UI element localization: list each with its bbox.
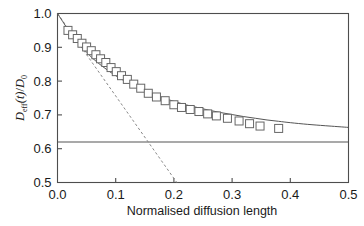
data-point-marker [275, 124, 283, 132]
chart-svg: 0.00.10.20.30.40.5 0.50.60.70.80.91.0 No… [0, 0, 364, 226]
y-axis-title: Deff(t)/D0 [13, 75, 29, 122]
y-axis-title-D2: D [13, 79, 27, 89]
data-point-marker [177, 103, 185, 111]
y-tick-label: 0.9 [33, 40, 51, 55]
data-point-marker [161, 97, 169, 105]
y-axis-title-D: D [13, 112, 27, 122]
y-tick-label: 0.5 [33, 175, 51, 190]
y-axis-title-text: Deff(t)/D0 [13, 75, 29, 122]
y-tick-label: 1.0 [33, 6, 51, 21]
data-point-marker [246, 120, 254, 128]
data-point-marker [170, 101, 178, 109]
x-axis-title: Normalised diffusion length [127, 204, 278, 218]
x-tick-label: 0.1 [107, 187, 125, 202]
y-tick-label: 0.8 [33, 74, 51, 89]
y-tick-label: 0.6 [33, 141, 51, 156]
data-point-marker [204, 110, 212, 118]
y-tick-label: 0.7 [33, 107, 51, 122]
data-point-marker [212, 112, 220, 120]
y-axis-title-eff: eff [20, 103, 29, 112]
data-point-marker [137, 84, 145, 92]
x-tick-label: 0.5 [339, 187, 357, 202]
data-point-marker [195, 108, 203, 116]
y-axis-title-zero: 0 [20, 75, 29, 79]
data-point-marker [186, 105, 194, 113]
chart-figure: 0.00.10.20.30.40.5 0.50.60.70.80.91.0 No… [0, 0, 364, 226]
x-tick-label: 0.2 [165, 187, 183, 202]
y-axis-title-of-t: (t) [13, 91, 27, 103]
x-tick-label: 0.4 [281, 187, 299, 202]
data-point-marker [256, 122, 264, 130]
data-point-marker [235, 117, 243, 125]
data-point-marker [144, 89, 152, 97]
x-tick-label: 0.3 [223, 187, 241, 202]
data-point-marker [223, 114, 231, 122]
data-point-marker [152, 93, 160, 101]
